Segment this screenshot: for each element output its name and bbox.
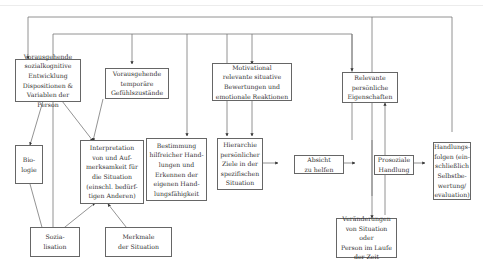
node-interpretation: Interpretation von und Auf- merksamkeit … — [80, 140, 144, 204]
node-veraenderungen: Veränderungen von Situation oder Person … — [336, 218, 397, 258]
node-handlungsfolgen: Handlungs- folgen (ein- schließlich Selb… — [433, 142, 471, 200]
node-merkmale: Merkmale der Situation — [105, 227, 172, 257]
node-sozialisation: Sozia- lisation — [30, 227, 80, 257]
node-hierarchie: Hierarchie persönlicher Ziele in der spe… — [217, 138, 263, 190]
node-eigenschaften: Relevante persönliche Eigenschaften — [342, 72, 398, 103]
node-prosoziale: Prosoziale Handlung — [374, 155, 414, 175]
node-dispositionen: Vorausgehende sozialkognitive Entwicklun… — [15, 59, 81, 102]
node-absicht: Absicht zu helfen — [294, 155, 344, 174]
node-gefuehlszustaende: Vorausgehende temporäre Gefühlszustände — [105, 68, 169, 99]
node-motivational: Motivational relevante situative Bewertu… — [212, 63, 292, 101]
node-bestimmung: Bestimmung hilfreicher Hand- lungen und … — [146, 138, 207, 201]
node-biologie: Bio- logie — [15, 145, 43, 184]
